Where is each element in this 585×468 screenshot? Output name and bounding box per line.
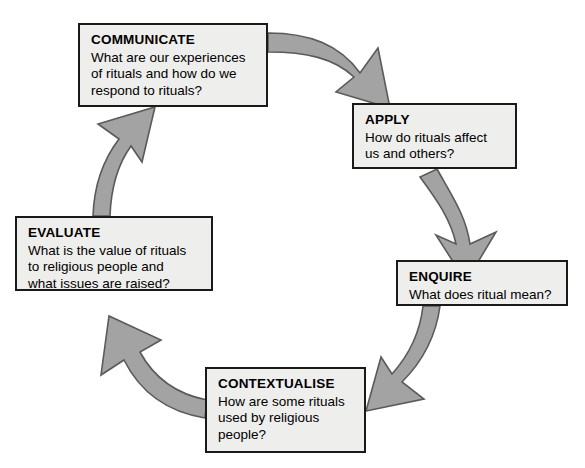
node-communicate[interactable]: COMMUNICATE What are our experiences of … [78, 23, 268, 107]
node-evaluate-text: What is the value of rituals to religiou… [28, 243, 202, 292]
node-apply-text: How do rituals affect us and others? [365, 130, 506, 163]
node-contextualise[interactable]: CONTEXTUALISE How are some rituals used … [205, 367, 366, 453]
diagram-canvas: COMMUNICATE What are our experiences of … [0, 0, 585, 468]
node-communicate-text: What are our experiences of rituals and … [91, 50, 257, 99]
node-evaluate-title: EVALUATE [28, 225, 202, 242]
node-communicate-title: COMMUNICATE [91, 32, 257, 49]
arrow-contextualise-to-evaluate [101, 316, 207, 418]
node-contextualise-title: CONTEXTUALISE [218, 376, 355, 393]
node-enquire-title: ENQUIRE [409, 269, 557, 286]
node-contextualise-text: How are some rituals used by religious p… [218, 394, 355, 443]
arrow-communicate-to-apply [268, 33, 390, 108]
node-enquire[interactable]: ENQUIRE What does ritual mean? [396, 260, 568, 306]
node-apply[interactable]: APPLY How do rituals affect us and other… [352, 103, 517, 169]
node-apply-title: APPLY [365, 112, 506, 129]
arrow-enquire-to-contextualise [366, 306, 440, 411]
node-evaluate[interactable]: EVALUATE What is the value of rituals to… [15, 216, 213, 291]
arrow-evaluate-to-communicate [93, 107, 155, 216]
node-enquire-text: What does ritual mean? [409, 287, 557, 303]
